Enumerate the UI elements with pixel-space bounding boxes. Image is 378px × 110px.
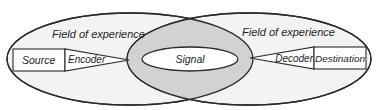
- communication-diagram: Field of experience Field of experience …: [0, 0, 378, 110]
- decoder-label: Decoder: [275, 53, 313, 64]
- destination-label: Destination: [315, 53, 365, 64]
- right-field-label: Field of experience: [242, 26, 335, 38]
- left-field-label: Field of experience: [52, 28, 145, 40]
- source-label: Source: [22, 54, 55, 66]
- encoder-label: Encoder: [68, 54, 106, 65]
- signal-label: Signal: [175, 53, 205, 65]
